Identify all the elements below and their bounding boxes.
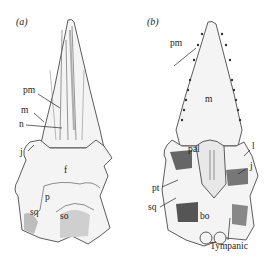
label-a-frontal: f bbox=[64, 166, 67, 176]
skull-drawings bbox=[0, 0, 269, 263]
label-b-tympanic: Tympanic bbox=[210, 242, 248, 252]
label-a-parietal: p bbox=[45, 193, 50, 203]
label-b-lacrimal: l bbox=[252, 142, 255, 152]
skull-b-ventral-view bbox=[162, 21, 258, 246]
label-b-maxilla: m bbox=[205, 95, 212, 105]
label-a-nasal: n bbox=[19, 120, 24, 130]
label-b-pterygoid: pt bbox=[152, 184, 159, 194]
label-a-supraoccipital: so bbox=[60, 212, 68, 222]
label-b-jugal: j bbox=[250, 162, 253, 172]
label-b-squamosal: sq bbox=[148, 203, 156, 213]
label-b-premaxilla: pm bbox=[170, 39, 182, 49]
label-b-basioccipital: bo bbox=[200, 212, 210, 222]
label-b-palatine: pal bbox=[188, 145, 200, 155]
label-a-premaxilla: pm bbox=[23, 86, 35, 96]
panel-b-label: (b) bbox=[147, 16, 159, 27]
panel-a-label: (a) bbox=[16, 16, 28, 27]
skull-diagram-figure: (a) (b) pm m n j f p sq so pm m pal l j … bbox=[0, 0, 269, 263]
label-a-squamosal: sq bbox=[30, 208, 38, 218]
label-a-jugal: j bbox=[20, 148, 23, 158]
label-a-maxilla: m bbox=[21, 106, 28, 116]
